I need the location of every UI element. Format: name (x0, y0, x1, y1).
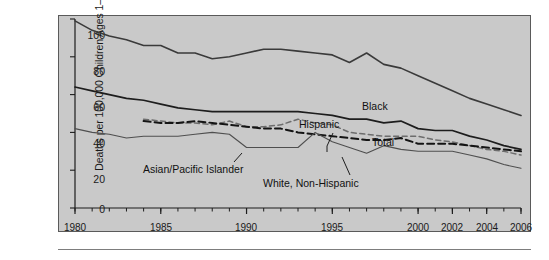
x-tick-2006: 2006 (510, 222, 532, 233)
y-tick-0: 0 (79, 204, 105, 214)
y-tick-100: 100 (79, 30, 105, 40)
x-tick-1985: 1985 (150, 222, 172, 233)
annot-asian-pacific-islander: Asian/Pacific Islander (143, 163, 243, 175)
chart-panel: Deaths per 100,000 Children Ages 1–4 100… (58, 15, 531, 232)
x-tick-1980: 1980 (64, 222, 86, 233)
annot-white-non-hispanic: White, Non-Hispanic (263, 177, 359, 189)
annot-black: Black (362, 100, 388, 112)
x-axis-tick-labels: 1980 1985 1990 1995 2000 2002 2004 2006 (0, 222, 549, 238)
x-tick-2004: 2004 (476, 222, 498, 233)
x-tick-2002: 2002 (441, 222, 463, 233)
y-axis-tick-labels: 100 80 60 40 20 0 (77, 16, 105, 233)
x-tick-2000: 2000 (407, 222, 429, 233)
y-tick-40: 40 (79, 138, 105, 148)
y-tick-20: 20 (79, 174, 105, 184)
y-tick-60: 60 (79, 102, 105, 112)
footer-rule (58, 249, 531, 250)
x-tick-1995: 1995 (321, 222, 343, 233)
annot-hispanic: Hispanic (299, 118, 339, 130)
y-tick-80: 80 (79, 66, 105, 76)
chart-figure: Deaths per 100,000 Children Ages 1–4 100… (0, 0, 549, 260)
x-tick-1990: 1990 (235, 222, 257, 233)
annot-total: Total (372, 136, 394, 148)
